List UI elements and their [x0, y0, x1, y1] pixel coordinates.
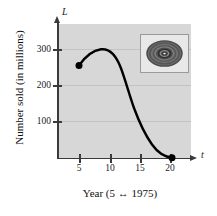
- figure-container: L t 300 200 100 5 10 15 20: [0, 0, 217, 216]
- data-curve-svg: [0, 0, 217, 216]
- vinyl-record-icon: [141, 35, 188, 72]
- y-axis-title: Number sold (in millions): [14, 17, 25, 159]
- curve-end-endpoint-dot: [169, 154, 176, 161]
- x-axis-title: Year (5 ↔ 1975): [40, 188, 200, 199]
- curve-start-endpoint-dot: [76, 62, 83, 69]
- inset-photo-frame: [140, 34, 189, 73]
